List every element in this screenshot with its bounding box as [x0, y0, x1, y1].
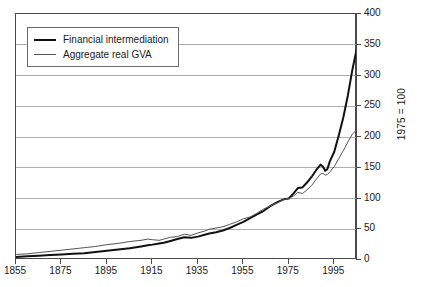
x-tick-label: 1875: [49, 266, 71, 276]
y-tick: [356, 13, 361, 14]
legend-item: Financial intermediation: [34, 32, 169, 47]
x-tick-label: 1995: [322, 266, 344, 276]
x-tick-label: 1935: [186, 266, 208, 276]
y-tick: [356, 105, 361, 106]
y-tick: [356, 167, 361, 168]
y-tick: [356, 198, 361, 199]
x-tick: [106, 259, 107, 264]
chart-figure: 050100150200250300350400 185518751895191…: [0, 0, 434, 287]
y-tick-label: 350: [364, 39, 381, 49]
x-tick: [60, 259, 61, 264]
legend-swatch-line-icon: [34, 54, 56, 55]
y-tick-label: 400: [364, 8, 381, 18]
x-tick: [151, 259, 152, 264]
x-tick-label: 1855: [4, 266, 26, 276]
x-tick: [15, 259, 16, 264]
y-tick-label: 50: [364, 223, 375, 233]
y-tick-label: 0: [364, 254, 370, 264]
legend-swatch-line-icon: [34, 39, 56, 41]
x-tick-label: 1915: [140, 266, 162, 276]
y-tick: [356, 228, 361, 229]
x-tick-label: 1955: [231, 266, 253, 276]
legend-item-label: Financial intermediation: [63, 35, 169, 45]
x-tick-label: 1975: [277, 266, 299, 276]
x-tick: [288, 259, 289, 264]
y-tick: [356, 44, 361, 45]
y-tick: [356, 75, 361, 76]
x-tick: [333, 259, 334, 264]
legend-item-label: Aggregate real GVA: [63, 50, 152, 60]
x-tick: [197, 259, 198, 264]
chart-legend: Financial intermediation Aggregate real …: [27, 27, 179, 67]
x-tick: [242, 259, 243, 264]
y-axis-title: 1975 = 100: [396, 88, 407, 140]
y-tick-label: 200: [364, 131, 381, 141]
y-tick-label: 100: [364, 193, 381, 203]
y-tick-label: 150: [364, 162, 381, 172]
x-tick-label: 1895: [95, 266, 117, 276]
y-tick: [356, 136, 361, 137]
y-tick: [356, 259, 361, 260]
legend-item: Aggregate real GVA: [34, 47, 169, 62]
y-tick-label: 300: [364, 70, 381, 80]
y-tick-label: 250: [364, 100, 381, 110]
